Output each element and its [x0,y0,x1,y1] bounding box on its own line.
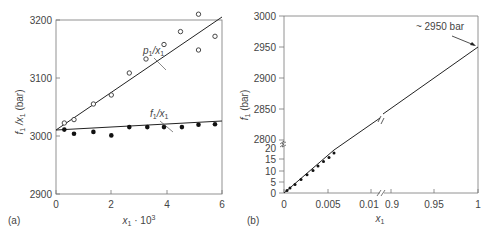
figure: 3200 3100 3000 2900 f1 /x1 (bar) 0 2 4 6… [0,0,494,237]
x-axis-label-b: x1 [375,213,385,225]
panel-label-a: (a) [8,215,20,226]
xtick-label: 2 [108,199,114,210]
ytick-label: 20 [265,143,277,154]
xtick-label: 4 [164,199,170,210]
x-axis-a: 0 2 4 6 x1 · 103 [53,190,225,227]
p1-x1-fit-line [56,17,222,130]
ytick-label: 2850 [254,104,277,115]
ytick-label: 3000 [30,131,53,142]
annotation-2950-bar: ~ 2950 bar [416,21,465,32]
ytick-label: 10 [265,166,277,177]
y-axis-break-icon [280,141,286,147]
ytick-label: 2900 [30,189,53,200]
xtick-label: 0.005 [315,199,340,210]
panel-label-b: (b) [247,215,259,226]
xtick-label: 1 [475,199,481,210]
ytick-label: 2950 [254,42,277,53]
f1-points-b [286,152,336,193]
ytick-label: 0 [270,188,276,199]
f1-line-upper [383,47,478,114]
f1-line-middle [334,118,380,150]
f1-line-lower [284,150,334,193]
x-axis-b: 0 0.005 0.01 0.9 0.95 1 x1 [281,189,481,225]
ytick-label: 15 [265,154,277,165]
xtick-label: 0.9 [385,199,399,210]
xtick-label: 6 [219,199,225,210]
xtick-label: 0.01 [359,199,379,210]
series-label-p1-x1: p1/x1 [142,45,164,57]
xtick-label: 0 [53,199,59,210]
f1-x1-points [62,122,217,138]
ytick-label: 3100 [30,73,53,84]
y-axis-b: 3000 2950 2900 2850 2800 20 15 10 5 0 f1… [239,11,284,199]
ytick-label: 5 [270,177,276,188]
y-axis-label-b: f1 (bar) [239,90,251,121]
annotation-arrow [452,36,474,45]
y-axis-label-a: f1 /x1 (bar) [14,89,26,134]
line-break-icon [378,116,384,124]
p1-x1-points-extra [196,34,217,52]
y-axis-a: 3200 3100 3000 2900 f1 /x1 (bar) [14,15,60,200]
ytick-label: 3200 [30,15,53,26]
plot-frame-a [56,20,222,194]
panel-b: 3000 2950 2900 2850 2800 20 15 10 5 0 f1… [239,11,481,226]
ytick-label: 2900 [254,73,277,84]
panel-a: 3200 3100 3000 2900 f1 /x1 (bar) 0 2 4 6… [8,12,225,227]
series-label-f1-x1: f1/x1 [150,108,168,120]
x-axis-label-a: x1 · 103 [122,214,156,227]
p1-x1-points [62,12,201,125]
arrow-head-icon [470,42,476,46]
ytick-label: 3000 [254,11,277,22]
xtick-label: 0.95 [424,199,444,210]
xtick-label: 0 [281,199,287,210]
